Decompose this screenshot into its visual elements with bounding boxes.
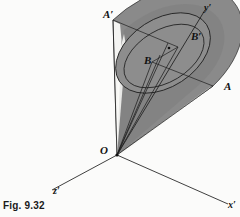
label-b-prime: B′ [191, 31, 201, 42]
cone-diagram-svg [0, 0, 240, 217]
b-prime-marker [168, 47, 171, 50]
origin-marker [115, 153, 118, 156]
label-origin: O [100, 145, 108, 156]
label-x-axis: x′ [228, 200, 236, 210]
label-a-prime: A′ [103, 9, 113, 20]
label-z-axis: z′ [53, 186, 60, 196]
label-b: B [144, 55, 151, 66]
label-y-axis: y′ [204, 3, 211, 13]
x-axis-line [117, 155, 228, 204]
label-a: A [224, 81, 231, 92]
figure-caption: Fig. 9.32 [3, 200, 45, 211]
figure-container: A′ B′ B A O y′ x′ z′ Fig. 9.32 [0, 0, 240, 217]
z-axis-line [52, 155, 117, 190]
